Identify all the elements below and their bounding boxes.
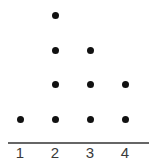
data-dot (52, 12, 59, 19)
data-dot (122, 81, 129, 88)
data-dot (122, 116, 129, 123)
x-tick-label: 3 (80, 145, 100, 161)
x-tick-label: 1 (10, 145, 30, 161)
x-tick-label: 4 (115, 145, 135, 161)
data-dot (17, 116, 24, 123)
data-dot (52, 47, 59, 54)
data-dot (87, 81, 94, 88)
data-dot (52, 81, 59, 88)
data-dot (52, 116, 59, 123)
data-dot (87, 47, 94, 54)
data-dot (87, 116, 94, 123)
dot-plot: 1 2 3 4 (0, 0, 151, 167)
x-tick-label: 2 (45, 145, 65, 161)
